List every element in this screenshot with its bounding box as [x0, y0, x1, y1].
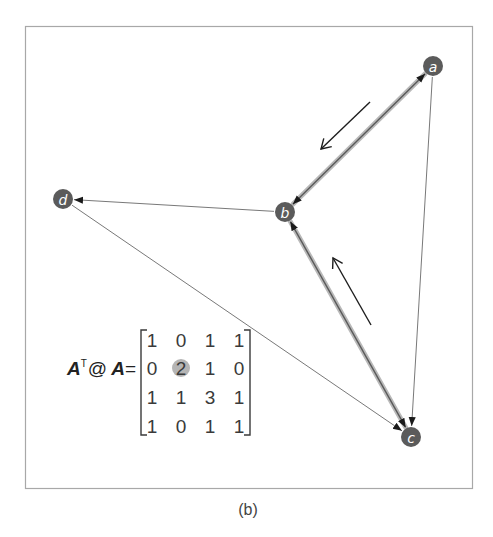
- formula-operator: @: [88, 358, 107, 379]
- matrix-cell-r0-c0: 1: [147, 330, 158, 351]
- edge-line: [412, 77, 433, 426]
- node-label: c: [407, 430, 415, 446]
- formula-rhs-matrix: A: [110, 358, 125, 379]
- node-a: a: [423, 56, 443, 76]
- matrix-cells: 1011021011311011: [147, 330, 245, 437]
- matrix-cell-r0-c2: 1: [205, 330, 216, 351]
- matrix-cell-r3-c2: 1: [205, 416, 216, 437]
- node-label: b: [281, 205, 290, 221]
- matrix-cell-r0-c1: 0: [176, 330, 187, 351]
- formula-transpose-sup: T: [81, 358, 87, 369]
- matrix-cell-r2-c1: 1: [176, 387, 187, 408]
- matrix-cell-r2-c3: 1: [234, 387, 245, 408]
- graph-figure: abcd AT@A= 1011021011311011 (b): [0, 0, 493, 537]
- matrix: 1011021011311011: [141, 330, 250, 437]
- indicator-shaft: [321, 102, 370, 149]
- edge-b-d: [74, 200, 274, 212]
- matrix-cell-r0-c3: 1: [234, 330, 245, 351]
- edge-a-b: [293, 74, 425, 205]
- edge-a-c: [412, 77, 433, 426]
- walk-indicator-arrow: [333, 258, 371, 325]
- node-b: b: [275, 202, 295, 222]
- edge-line: [293, 74, 425, 205]
- node-d: d: [53, 189, 73, 209]
- walk-indicator-arrow: [321, 102, 370, 149]
- matrix-cell-r1-c0: 0: [147, 358, 158, 379]
- formula-equals: =: [125, 358, 136, 379]
- matrix-cell-r1-c3: 0: [234, 358, 245, 379]
- node-label: d: [59, 192, 68, 208]
- matrix-cell-r3-c0: 1: [147, 416, 158, 437]
- edge-line: [74, 200, 274, 212]
- matrix-cell-r2-c0: 1: [147, 387, 158, 408]
- matrix-cell-r3-c3: 1: [234, 416, 245, 437]
- matrix-cell-r1-c1: 2: [176, 358, 187, 379]
- edge-line: [290, 222, 405, 428]
- edge-b-c: [290, 222, 405, 428]
- matrix-right-bracket: [244, 330, 250, 435]
- formula-label: AT@A=: [66, 358, 136, 379]
- figure-caption: (b): [238, 501, 258, 518]
- matrix-cell-r2-c2: 3: [205, 387, 216, 408]
- node-c: c: [401, 427, 421, 447]
- formula-lhs-matrix: A: [66, 358, 81, 379]
- indicator-shaft: [333, 258, 371, 325]
- node-label: a: [429, 59, 438, 75]
- matrix-cell-r1-c2: 1: [205, 358, 216, 379]
- matrix-cell-r3-c1: 0: [176, 416, 187, 437]
